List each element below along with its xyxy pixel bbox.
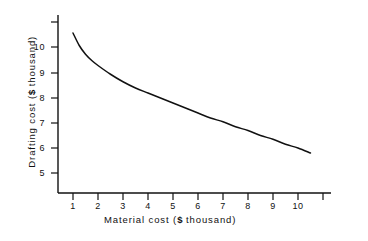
x-tick-label-7: 7: [212, 202, 234, 211]
x-tick-label-3: 3: [112, 202, 134, 211]
x-tick-label-1: 1: [62, 202, 84, 211]
y-axis-title-prefix: Drafting cost (: [26, 95, 37, 168]
y-axis-title-suffix: thousand): [26, 36, 37, 90]
x-tick-label-10: 10: [287, 202, 309, 211]
x-axis-title-prefix: Material cost (: [104, 214, 177, 225]
data-series-line: [73, 33, 311, 153]
chart-canvas: [0, 0, 368, 241]
x-tick-label-9: 9: [262, 202, 284, 211]
x-axis-ticks: [73, 193, 323, 200]
x-tick-label-5: 5: [162, 202, 184, 211]
x-axis-title-suffix: thousand): [182, 214, 236, 225]
chart-figure: 10 9 8 7 6 5 1 2 3 4 5 6 7 8 9 10 Materi…: [0, 0, 368, 241]
axes: [58, 15, 331, 193]
dollar-sign-icon: $: [26, 90, 37, 95]
x-tick-label-2: 2: [87, 202, 109, 211]
x-tick-label-8: 8: [237, 202, 259, 211]
x-axis-title: Material cost ($ thousand): [104, 215, 236, 225]
y-axis-ticks: [51, 22, 58, 173]
x-tick-label-6: 6: [187, 202, 209, 211]
x-tick-label-4: 4: [137, 202, 159, 211]
y-axis-title: Drafting cost ($ thousand): [27, 27, 37, 177]
